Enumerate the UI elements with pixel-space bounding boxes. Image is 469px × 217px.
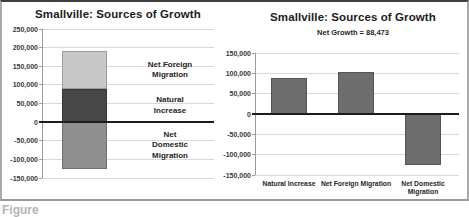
segment-label-line: Migration [125, 70, 215, 80]
x-axis-label-net-domestic-migration: Net DomesticMigration [383, 180, 463, 197]
stacked-chart-plot: -150,000-100,000-50,000050,000100,000150… [2, 2, 237, 201]
gridline [255, 53, 459, 54]
net-growth-chart: Smallville: Sources of Growth Net Growth… [237, 2, 469, 201]
y-tick-label: 50,000 [207, 90, 251, 97]
bar-segment-net-domestic-migration [62, 122, 107, 169]
chart-panel: Smallville: Sources of Growth -150,000-1… [0, 0, 469, 201]
segment-label-line: Increase [125, 106, 215, 116]
segment-label-line: Net [125, 130, 215, 140]
gridline [42, 29, 214, 30]
y-tick-label: 250,000 [0, 26, 38, 33]
segment-label-net-foreign-migration: Net ForeignMigration [125, 60, 215, 81]
bar-natural-increase [271, 78, 307, 114]
segment-label-natural-increase: NaturalIncrease [125, 95, 215, 116]
bar-segment-natural-increase [62, 89, 107, 122]
segment-label-net-domestic-migration: NetDomesticMigration [125, 130, 215, 161]
y-tick-label: -150,000 [0, 175, 38, 182]
y-tick-label: -50,000 [207, 131, 251, 138]
gridline [42, 47, 214, 48]
segment-label-line: Natural [125, 95, 215, 105]
y-tick-label: 0 [207, 111, 251, 118]
y-tick-label: 100,000 [0, 81, 38, 88]
segment-label-line: Net Foreign [125, 60, 215, 70]
zero-axis-line [39, 121, 214, 123]
y-tick-label: 0 [0, 119, 38, 126]
y-axis-line [42, 29, 43, 178]
bar-net-domestic-migration [405, 114, 441, 165]
segment-label-line: Migration [125, 151, 215, 161]
y-tick-label: -50,000 [0, 137, 38, 144]
gridline [255, 175, 459, 176]
y-tick-label: 150,000 [207, 50, 251, 57]
y-tick-label: -100,000 [0, 156, 38, 163]
y-tick-label: 200,000 [0, 44, 38, 51]
bar-net-foreign-migration [338, 72, 374, 114]
segment-label-line: Domestic [125, 140, 215, 150]
net-growth-chart-plot: -150,000-100,000-50,000050,000100,000150… [237, 2, 469, 201]
zero-axis-line [252, 113, 459, 115]
bar-segment-net-foreign-migration [62, 51, 107, 89]
gridline [42, 178, 214, 179]
y-tick-label: -150,000 [207, 172, 251, 179]
caption-cutoff: Figure [2, 203, 462, 212]
y-tick-label: 150,000 [0, 63, 38, 70]
y-tick-label: -100,000 [207, 151, 251, 158]
x-axis-label-line: Migration [383, 188, 463, 196]
stacked-sources-chart: Smallville: Sources of Growth -150,000-1… [2, 2, 237, 201]
y-tick-label: 100,000 [207, 70, 251, 77]
y-tick-label: 50,000 [0, 100, 38, 107]
x-axis-label-line: Net Domestic [383, 180, 463, 188]
